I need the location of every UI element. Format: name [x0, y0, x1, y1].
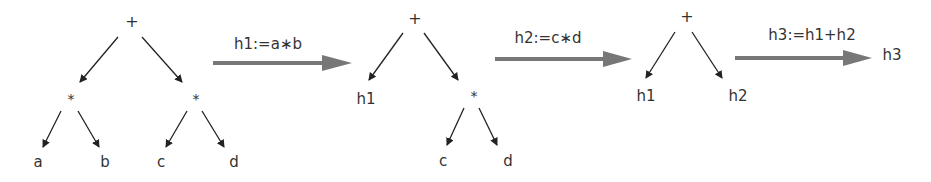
tree3-root-plus: + — [680, 9, 693, 25]
tree2-leaf-d: d — [503, 154, 513, 169]
tree1-root-plus: + — [125, 14, 138, 30]
tree3-right-h2: h2 — [728, 89, 747, 104]
tree2-root-plus: + — [408, 11, 421, 27]
tree2-leaf-c: c — [439, 154, 447, 169]
tree1-right-mul: * — [193, 92, 200, 106]
step-label-3: h3:=h1+h2 — [768, 28, 855, 43]
step-label-1: h1:=a∗b — [234, 37, 302, 52]
step-arrow-1 — [213, 55, 352, 71]
tree1-leaf-b: b — [100, 155, 110, 170]
tree3-edges — [646, 32, 722, 78]
tree3-left-h1: h1 — [636, 89, 655, 104]
tree1-left-mul: * — [68, 92, 75, 106]
tree1-leaf-a: a — [33, 155, 42, 170]
step-arrows — [213, 50, 872, 71]
tree2-edges — [369, 33, 497, 145]
tree1-leaf-c: c — [157, 155, 165, 170]
tree2-left-h1: h1 — [356, 92, 375, 107]
result-h3: h3 — [882, 48, 901, 63]
step-arrow-2 — [495, 51, 632, 67]
step-label-2: h2:=c∗d — [514, 31, 581, 46]
step-arrow-3 — [735, 50, 872, 66]
tree1-leaf-d: d — [229, 155, 239, 170]
expression-tree-diagram: + * * a b c d h1:=a∗b + h1 * c d h2:=c∗d… — [0, 0, 931, 182]
tree2-right-mul: * — [471, 89, 478, 103]
